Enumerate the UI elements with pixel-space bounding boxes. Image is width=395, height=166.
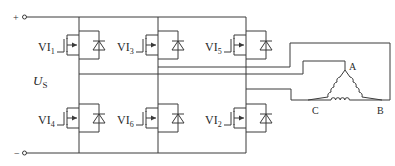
switch-vi4-mosfet-diode-icon: [57, 100, 105, 136]
leg-3: [224, 17, 272, 153]
supply-voltage-label: US: [33, 73, 47, 90]
node-a-label: A: [349, 61, 357, 72]
negative-terminal: [23, 151, 27, 155]
winding-ac-inductor-icon: [308, 70, 345, 100]
leg-1: [57, 17, 105, 153]
node-b-label: B: [377, 105, 384, 116]
label-vi6: VI6: [117, 113, 134, 129]
switch-vi3-mosfet-diode-icon: [136, 27, 184, 63]
negative-rail: −: [14, 148, 246, 159]
label-vi3: VI3: [117, 40, 134, 56]
delta-motor: A B C: [308, 61, 384, 116]
winding-ab-inductor-icon: [345, 70, 382, 100]
node-c-label: C: [312, 105, 319, 116]
label-vi1: VI1: [38, 40, 55, 56]
switch-vi6-mosfet-diode-icon: [136, 100, 184, 136]
leg-2: [136, 17, 184, 153]
switch-vi1-mosfet-diode-icon: [57, 27, 105, 63]
switch-vi5-mosfet-diode-icon: [224, 27, 272, 63]
switch-vi2-mosfet-diode-icon: [224, 100, 272, 136]
label-vi5: VI5: [205, 40, 222, 56]
inverter-circuit-diagram: + − US VI1 VI3 VI5 VI4 VI6 VI2: [0, 0, 395, 166]
minus-label: −: [14, 148, 20, 159]
label-vi2: VI2: [205, 113, 222, 129]
label-vi4: VI4: [38, 113, 55, 129]
positive-rail: +: [13, 12, 246, 23]
positive-terminal: [23, 15, 27, 19]
plus-label: +: [13, 12, 19, 23]
